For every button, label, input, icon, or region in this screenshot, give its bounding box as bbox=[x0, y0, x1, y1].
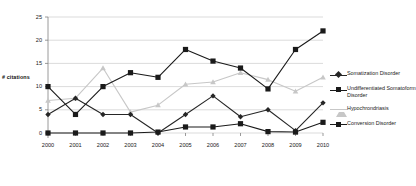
legend-square-icon bbox=[330, 120, 347, 129]
citations-line-chart: # citations 0510152025 20002001200220032… bbox=[0, 0, 416, 186]
legend-item[interactable]: Somatization Disorder bbox=[330, 70, 416, 80]
legend-label: Undifferentiated Somatoform Disorder bbox=[347, 85, 416, 99]
x-tick-label: 2006 bbox=[200, 142, 226, 148]
legend-label: Hypochrondriasis bbox=[347, 105, 389, 112]
legend-item[interactable]: Hypochrondriasis bbox=[330, 105, 416, 115]
legend-square-icon bbox=[330, 86, 347, 95]
y-tick-label: 0 bbox=[24, 130, 42, 136]
legend-label: Conversion Disorder bbox=[347, 120, 396, 127]
x-tick-label: 2004 bbox=[145, 142, 171, 148]
x-tick-label: 2008 bbox=[255, 142, 281, 148]
legend-item[interactable]: Undifferentiated Somatoform Disorder bbox=[330, 85, 416, 99]
legend-item[interactable]: Conversion Disorder bbox=[330, 120, 416, 130]
x-tick-label: 2009 bbox=[283, 142, 309, 148]
y-tick-label: 20 bbox=[24, 37, 42, 43]
x-tick-label: 2000 bbox=[35, 142, 61, 148]
x-tick-label: 2010 bbox=[310, 142, 336, 148]
legend-label: Somatization Disorder bbox=[347, 70, 400, 77]
chart-legend: Somatization DisorderUndifferentiated So… bbox=[330, 70, 416, 135]
legend-triangle-icon bbox=[330, 105, 347, 114]
x-tick-label: 2001 bbox=[63, 142, 89, 148]
x-tick-label: 2007 bbox=[228, 142, 254, 148]
y-tick-label: 15 bbox=[24, 60, 42, 66]
y-tick-label: 25 bbox=[24, 14, 42, 20]
y-tick-label: 10 bbox=[24, 83, 42, 89]
x-tick-label: 2005 bbox=[173, 142, 199, 148]
x-tick-label: 2002 bbox=[90, 142, 116, 148]
legend-diamond-icon bbox=[330, 71, 347, 80]
x-tick-label: 2003 bbox=[118, 142, 144, 148]
y-tick-label: 5 bbox=[24, 106, 42, 112]
